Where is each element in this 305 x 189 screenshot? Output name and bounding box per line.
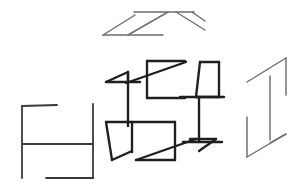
line-figure-drawing (0, 0, 305, 189)
stroke-segment (22, 105, 57, 106)
sketch-canvas (0, 0, 305, 189)
